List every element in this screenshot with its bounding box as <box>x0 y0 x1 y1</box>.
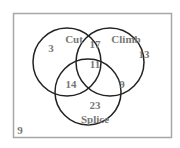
cut-label: Cut <box>65 33 83 45</box>
region-all-three: 11 <box>90 58 100 70</box>
region-cut-only: 3 <box>48 42 54 54</box>
splice-label: Splice <box>81 113 109 125</box>
region-outside: 9 <box>17 124 23 136</box>
region-climb-only: 13 <box>139 48 151 60</box>
venn-diagram: Cut Climb Splice 3 13 23 17 14 9 11 9 <box>0 0 180 148</box>
region-cut-climb: 17 <box>90 38 102 50</box>
region-cut-splice: 14 <box>66 78 78 90</box>
region-splice-only: 23 <box>90 99 102 111</box>
climb-label: Climb <box>111 33 140 45</box>
region-climb-splice: 9 <box>119 78 125 90</box>
